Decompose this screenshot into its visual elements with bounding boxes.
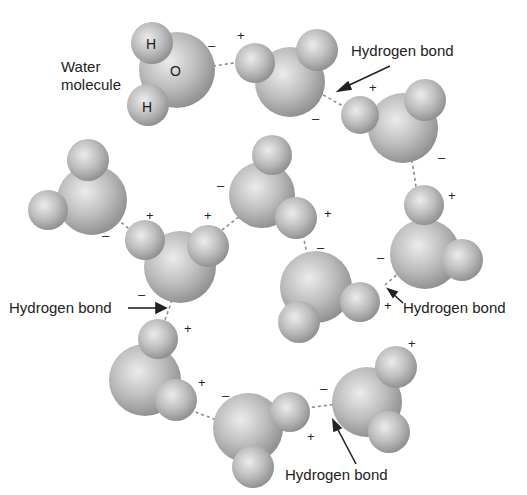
water-molecule xyxy=(341,79,446,163)
svg-text:+: + xyxy=(369,80,377,95)
svg-text:–: – xyxy=(217,178,225,193)
svg-text:+: + xyxy=(307,429,315,444)
svg-text:–: – xyxy=(138,287,146,302)
hydrogen-bond-callout-top-right: Hydrogen bond xyxy=(351,42,454,60)
water-hydrogen-bond-diagram: H O H – + – + – + – + + – + – – + – + + … xyxy=(0,0,527,495)
hydrogen-bond-callout-right: Hydrogen bond xyxy=(403,299,506,317)
water-molecule-label-line2: molecule xyxy=(61,76,121,94)
svg-text:–: – xyxy=(312,111,320,126)
svg-text:–: – xyxy=(102,228,110,243)
water-molecule xyxy=(332,346,417,453)
svg-text:–: – xyxy=(317,240,325,255)
water-molecule xyxy=(390,185,483,289)
water-molecule xyxy=(278,251,380,343)
svg-text:–: – xyxy=(438,150,446,165)
svg-text:+: + xyxy=(184,321,192,336)
hydrogen-bond-callout-left: Hydrogen bond xyxy=(9,299,112,317)
svg-text:+: + xyxy=(146,208,154,223)
svg-text:+: + xyxy=(448,188,456,203)
svg-text:+: + xyxy=(204,208,212,223)
svg-text:+: + xyxy=(324,206,332,221)
svg-text:–: – xyxy=(320,381,328,396)
hydrogen-atom-label: H xyxy=(142,99,152,115)
svg-text:–: – xyxy=(222,388,230,403)
water-molecule xyxy=(229,135,317,239)
svg-text:+: + xyxy=(384,298,392,313)
svg-text:+: + xyxy=(408,336,416,351)
water-molecule xyxy=(235,29,338,117)
water-molecule-label: Water molecule xyxy=(61,58,121,94)
water-molecule-label-line1: Water xyxy=(61,58,121,76)
svg-text:–: – xyxy=(208,38,216,53)
svg-text:+: + xyxy=(237,28,245,43)
svg-text:–: – xyxy=(377,250,385,265)
hydrogen-bond-callout-bottom: Hydrogen bond xyxy=(285,466,388,484)
hydrogen-atom-label: H xyxy=(146,36,156,52)
water-molecule xyxy=(28,139,127,235)
oxygen-atom-label: O xyxy=(170,63,181,79)
svg-text:+: + xyxy=(198,375,206,390)
